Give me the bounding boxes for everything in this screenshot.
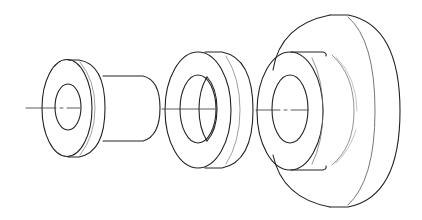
exploded-view-drawing bbox=[0, 0, 422, 220]
washer bbox=[165, 52, 253, 168]
center-line bbox=[26, 108, 308, 110]
flanged-collar bbox=[257, 15, 400, 207]
diagram-canvas: Exploded view of bushing assembly bbox=[0, 0, 422, 220]
